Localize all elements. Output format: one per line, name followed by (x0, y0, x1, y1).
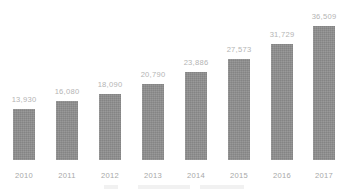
bar-rect[interactable] (142, 84, 164, 160)
bar-group: 27,573 (228, 0, 250, 160)
bar-value-label: 18,090 (98, 81, 123, 89)
bar-group: 16,080 (56, 0, 78, 160)
bar-value-label: 23,886 (184, 59, 209, 67)
bar-value-label: 36,509 (312, 13, 337, 21)
cropped-edge-artifact (104, 185, 244, 192)
bar-group: 20,790 (142, 0, 164, 160)
x-axis-tick-label: 2013 (133, 172, 173, 180)
bar-value-label: 16,080 (55, 88, 80, 96)
x-axis-tick-label: 2016 (262, 172, 302, 180)
bar-value-label: 27,573 (227, 46, 252, 54)
bar-chart: 13,930 16,080 18,090 20,790 23,886 27,57… (0, 0, 351, 192)
bar-rect[interactable] (271, 44, 293, 160)
bar-group: 23,886 (185, 0, 207, 160)
bar-group: 31,729 (271, 0, 293, 160)
x-axis-tick-label: 2010 (4, 172, 44, 180)
x-axis-tick-label: 2011 (47, 172, 87, 180)
x-axis-tick-label: 2017 (304, 172, 344, 180)
bar-rect[interactable] (228, 59, 250, 160)
x-axis-tick-label: 2012 (90, 172, 130, 180)
bar-value-label: 31,729 (270, 31, 295, 39)
x-axis-tick-label: 2014 (176, 172, 216, 180)
bar-rect[interactable] (13, 109, 35, 160)
x-axis-tick-label: 2015 (219, 172, 259, 180)
bar-rect[interactable] (99, 94, 121, 160)
bar-value-label: 20,790 (141, 71, 166, 79)
bar-group: 13,930 (13, 0, 35, 160)
plot-area: 13,930 16,080 18,090 20,790 23,886 27,57… (0, 0, 351, 160)
bar-rect[interactable] (313, 26, 335, 160)
bar-group: 36,509 (313, 0, 335, 160)
bar-rect[interactable] (185, 72, 207, 160)
bar-rect[interactable] (56, 101, 78, 160)
bar-group: 18,090 (99, 0, 121, 160)
bar-value-label: 13,930 (12, 96, 37, 104)
